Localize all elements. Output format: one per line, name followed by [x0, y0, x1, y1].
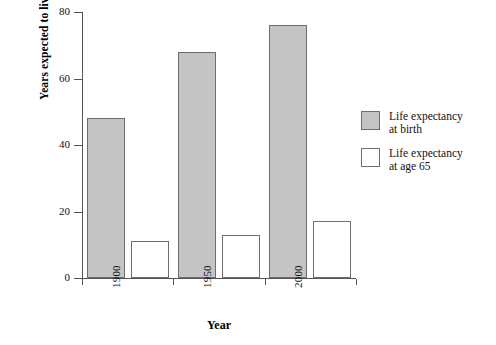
bar — [222, 235, 260, 278]
bar — [313, 221, 351, 278]
x-axis-tick — [173, 279, 174, 285]
legend-swatch — [361, 148, 380, 167]
x-axis-line — [82, 278, 356, 279]
legend-item: Life expectancy at birth — [361, 110, 493, 136]
legend-label: Life expectancy at birth — [389, 110, 463, 136]
x-axis-tick-label: 1900 — [111, 265, 122, 288]
y-axis-tick — [74, 79, 82, 80]
y-axis-tick-label-text: 40 — [44, 139, 70, 150]
y-axis-tick — [74, 12, 82, 13]
x-axis-tick — [356, 279, 357, 285]
x-axis-title: Year — [82, 318, 356, 333]
y-axis-tick-label: 40 — [40, 139, 70, 150]
x-axis-tick — [265, 279, 266, 285]
y-axis-tick-label-text: 20 — [44, 206, 70, 217]
bar — [269, 25, 307, 278]
y-axis-tick-label-text: 0 — [44, 272, 70, 283]
y-axis-tick-label: 20 — [40, 206, 70, 217]
bar — [178, 52, 216, 278]
bar — [87, 118, 125, 278]
bar-chart: 020406080 190019502000 Year Years expect… — [0, 0, 496, 345]
legend-swatch — [361, 111, 380, 130]
y-axis-title: Years expected to live — [38, 0, 50, 100]
x-axis-tick-label: 1950 — [202, 265, 213, 288]
x-axis-tick-label: 2000 — [293, 265, 304, 288]
y-axis-tick — [74, 145, 82, 146]
y-axis-tick — [74, 278, 82, 279]
y-axis-tick — [74, 212, 82, 213]
y-axis-tick-label: 0 — [40, 272, 70, 283]
legend: Life expectancy at birthLife expectancy … — [361, 110, 493, 184]
x-axis-tick — [82, 279, 83, 285]
bar — [131, 241, 169, 278]
legend-item: Life expectancy at age 65 — [361, 147, 493, 173]
bars-layer — [82, 12, 356, 278]
legend-label: Life expectancy at age 65 — [389, 147, 463, 173]
